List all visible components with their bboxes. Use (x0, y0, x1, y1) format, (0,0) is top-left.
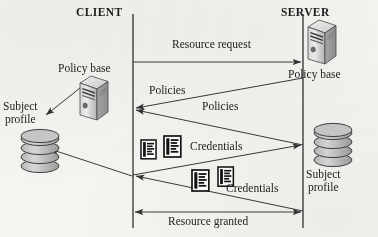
database-icon-server-subject-profile (314, 123, 352, 166)
node-label-server-subject-profile-line2: profile (306, 181, 341, 194)
node-label-client-subject-profile-line1: Subject (3, 100, 38, 113)
internal-arrow-policy-base-to-subject-profile (46, 88, 80, 115)
message-label-policies-lower: Policies (202, 100, 238, 112)
diagram-vector-layer (0, 0, 378, 237)
message-label-credentials-lower: Credentials (226, 182, 278, 194)
credential-document-icon-3 (192, 170, 209, 191)
node-label-client-subject-profile: Subject profile (3, 100, 38, 126)
header-server: SERVER (281, 6, 330, 18)
node-label-server-subject-profile: Subject profile (306, 168, 341, 194)
diagram-canvas: CLIENT SERVER Policy base Subject profil… (0, 0, 378, 237)
server-tower-icon-server-policy-base (308, 20, 336, 64)
message-label-credentials-upper: Credentials (190, 140, 242, 152)
header-client: CLIENT (76, 6, 123, 18)
node-label-client-policy-base: Policy base (58, 62, 111, 74)
message-label-resource-request: Resource request (172, 38, 251, 50)
node-label-server-policy-base: Policy base (288, 68, 341, 80)
internal-arrow-lifeline-to-subject-profile (50, 149, 132, 176)
credential-document-icon-2 (164, 136, 181, 157)
node-label-server-subject-profile-line1: Subject (306, 168, 341, 181)
message-label-resource-granted: Resource granted (168, 215, 248, 227)
database-icon-client-subject-profile (21, 129, 59, 172)
message-label-policies-upper: Policies (149, 84, 185, 96)
server-tower-icon-client-policy-base (80, 76, 108, 120)
credential-document-icon-1 (141, 140, 156, 159)
node-label-client-subject-profile-line2: profile (3, 113, 38, 126)
